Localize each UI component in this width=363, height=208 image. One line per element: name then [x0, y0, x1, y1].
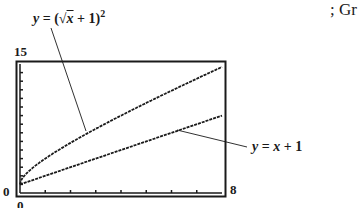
leader-line-curve2 [177, 130, 247, 147]
curve1-label-eq: = (√ [39, 11, 66, 26]
curve1-label: y = (√x + 1)2 [33, 8, 105, 27]
window-frame-outer [17, 62, 226, 197]
chart-canvas [0, 0, 363, 208]
y-min-label: 0 [3, 184, 10, 200]
leader-line-curve1 [51, 28, 86, 131]
curve-x-plus-one [20, 116, 222, 185]
curve2-label-eq: = [258, 139, 273, 154]
caption-fragment: ; Gr [330, 0, 357, 20]
x-max-label: 8 [230, 182, 237, 198]
curve2-label: y = x + 1 [252, 139, 302, 155]
curve1-label-exp: 2 [100, 8, 105, 19]
curve2-label-rest: + 1 [280, 139, 302, 154]
curve1-label-rest: + 1) [74, 11, 101, 26]
curve1-label-x: x [67, 11, 74, 26]
y-max-label: 15 [14, 44, 27, 60]
x-min-label: 0 [17, 198, 24, 208]
